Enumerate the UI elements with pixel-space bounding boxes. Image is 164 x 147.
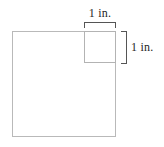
vertical-measure-label: 1 in.: [131, 41, 153, 54]
geometry-figure: 1 in. 1 in.: [0, 0, 164, 147]
vertical-measure-bracket: [121, 31, 127, 64]
horizontal-measure-bracket: [84, 22, 116, 28]
horizontal-measure-label: 1 in.: [82, 7, 118, 20]
unit-square-outline: [84, 31, 116, 63]
